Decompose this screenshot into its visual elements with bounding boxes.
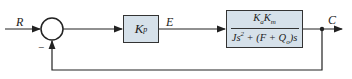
fraction-bar bbox=[231, 28, 299, 29]
output-label-c: C bbox=[328, 14, 336, 26]
error-label-e: E bbox=[166, 16, 173, 28]
tf-numerator: KaKm bbox=[253, 12, 276, 27]
input-label-r: R bbox=[16, 16, 23, 28]
tf-denominator: Js2 + (F + Qo)s bbox=[232, 30, 298, 46]
minus-sign: − bbox=[38, 42, 44, 53]
gain-block-kp: Kp bbox=[123, 15, 159, 43]
summing-junction bbox=[41, 18, 63, 40]
gain-subscript: p bbox=[143, 25, 147, 34]
plant-transfer-function-block: KaKm Js2 + (F + Qo)s bbox=[226, 10, 303, 48]
